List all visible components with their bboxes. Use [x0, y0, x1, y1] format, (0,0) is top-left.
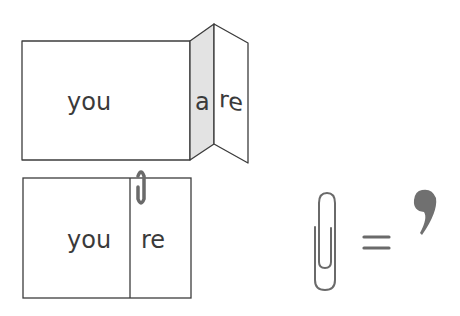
apostrophe-icon — [414, 190, 436, 235]
word-re-bottom: re — [141, 226, 165, 254]
paperclip-icon — [315, 193, 335, 290]
folded-paper — [22, 24, 248, 163]
contraction-diagram: you a re you re — [0, 0, 460, 316]
equals-icon — [364, 237, 389, 248]
word-you-bottom: you — [67, 226, 111, 254]
folded-letter-a: a — [195, 88, 210, 116]
word-you-top: you — [67, 88, 111, 116]
word-re-top: re — [219, 84, 243, 118]
